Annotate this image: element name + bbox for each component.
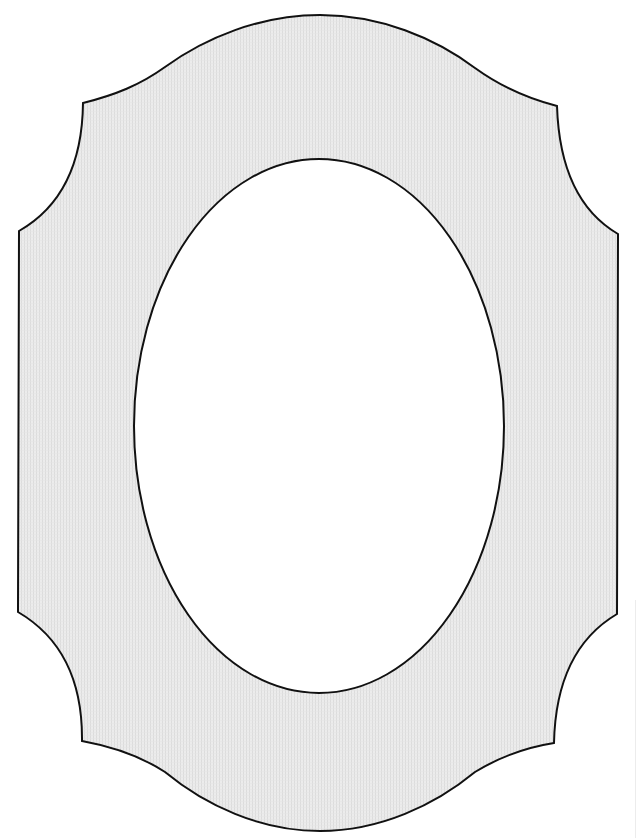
frame-drawing xyxy=(0,0,639,838)
scan-edge-line xyxy=(635,600,636,838)
inner-oval-opening xyxy=(134,159,504,693)
